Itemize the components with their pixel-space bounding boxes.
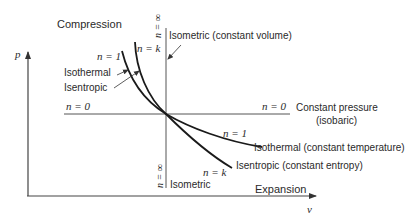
isothermal-label-right: Isothermal (constant temperature)	[254, 143, 405, 153]
isothermal-n-top: n = 1	[97, 51, 121, 62]
isobaric-n-left: n = 0	[66, 101, 90, 112]
v-axis-label: v	[307, 204, 312, 215]
isentropic-curve	[135, 42, 232, 168]
p-axis-label: p	[15, 49, 21, 60]
isentropic-label-right: Isentropic (constant entropy)	[236, 161, 363, 171]
isentropic-leader	[114, 71, 139, 88]
isobaric-n-right: n = 0	[262, 101, 286, 112]
isobaric-label-line1: Constant pressure	[296, 103, 378, 113]
isometric-label-top: Isometric (constant volume)	[169, 31, 292, 41]
isobaric-label-line2: (isobaric)	[316, 116, 357, 126]
expansion-label: Expansion	[255, 184, 306, 195]
compression-label: Compression	[57, 19, 122, 30]
isothermal-leader	[117, 70, 128, 75]
isometric-label-bottom: Isometric	[170, 180, 211, 190]
isentropic-n-top: n = k	[137, 43, 160, 54]
isometric-n-top: n = ∞	[153, 14, 163, 38]
isometric-n-bottom: n = ∞	[155, 164, 165, 188]
isothermal-label-left: Isothermal	[64, 68, 111, 78]
isentropic-n-bottom: n = k	[203, 167, 226, 178]
polytropic-process-diagram: Compression p v n = ∞ Isometric (constan…	[0, 0, 419, 219]
isothermal-n-bottom: n = 1	[223, 128, 247, 139]
isometric-leader	[168, 45, 181, 59]
isentropic-label-left: Isentropic	[64, 83, 107, 93]
